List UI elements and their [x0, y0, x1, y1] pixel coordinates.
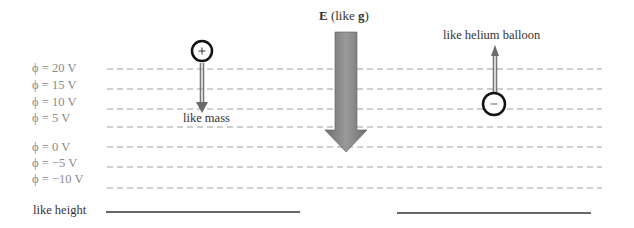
- potential-label-minus5: ϕ = −5 V: [32, 156, 77, 171]
- potential-label-0: ϕ = 0 V: [32, 140, 70, 155]
- negative-charge: [483, 93, 505, 115]
- potential-label-15: ϕ = 15 V: [32, 78, 77, 93]
- potential-label-10: ϕ = 10 V: [32, 95, 77, 110]
- like-height-label: like height: [33, 203, 86, 218]
- down-force-arrow: [196, 63, 208, 113]
- like-helium-balloon-caption: like helium balloon: [443, 28, 540, 43]
- potential-label-minus10: ϕ = −10 V: [32, 172, 84, 187]
- electric-field-arrow: [325, 32, 367, 152]
- e-symbol: E: [319, 8, 328, 23]
- potential-label-20: ϕ = 20 V: [32, 61, 77, 76]
- title-text: (like: [328, 8, 358, 23]
- like-mass-caption: like mass: [183, 111, 230, 126]
- title-close: ): [365, 8, 369, 23]
- positive-charge: [192, 41, 212, 61]
- potential-label-5: ϕ = 5 V: [32, 111, 70, 126]
- field-title: E (like g): [319, 8, 369, 24]
